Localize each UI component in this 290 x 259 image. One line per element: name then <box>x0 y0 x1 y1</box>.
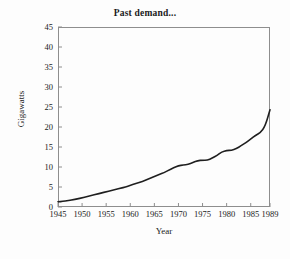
y-tick-label: 35 <box>31 63 53 72</box>
y-tick-label: 10 <box>31 163 53 172</box>
y-tick-label: 20 <box>31 123 53 132</box>
y-tick-label: 45 <box>31 23 53 32</box>
x-axis-title: Year <box>58 226 270 236</box>
chart-container: Past demand... 051015202530354045 194519… <box>0 0 290 259</box>
y-tick-label: 30 <box>31 83 53 92</box>
x-tick-label: 1989 <box>253 210 287 219</box>
y-tick-label: 5 <box>31 183 53 192</box>
data-line-past-demand <box>58 110 270 202</box>
x-axis-ticks <box>58 203 270 207</box>
y-tick-label: 25 <box>31 103 53 112</box>
y-axis-title: Gigawatts <box>16 74 26 144</box>
y-tick-label: 40 <box>31 43 53 52</box>
y-axis-ticks <box>58 27 62 207</box>
y-tick-label: 15 <box>31 143 53 152</box>
